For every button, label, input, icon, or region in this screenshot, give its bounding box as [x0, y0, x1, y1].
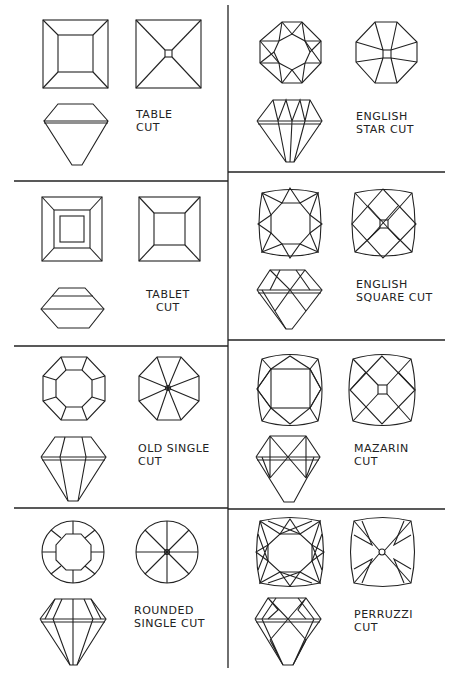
- tablet-cut-bottom-view: [139, 197, 200, 261]
- label-line: CUT: [354, 455, 409, 468]
- label-line: CUT: [146, 301, 190, 314]
- perruzzi-cut-side-view: [255, 598, 321, 665]
- label-line: PERRUZZI: [354, 608, 413, 621]
- english-square-cut-top-view: [258, 188, 322, 258]
- old-single-cut-side-view: [41, 437, 106, 501]
- label-line: MAZARIN: [354, 442, 409, 455]
- table-cut-top-view: [43, 20, 108, 88]
- label-english-star-cut: ENGLISH STAR CUT: [356, 110, 414, 136]
- perruzzi-cut-top-view: [256, 518, 324, 587]
- label-line: ENGLISH: [356, 110, 414, 123]
- english-star-cut-top-view: [260, 22, 321, 83]
- english-square-cut-bottom-view: [352, 189, 416, 258]
- old-single-cut-bottom-view: [139, 357, 199, 420]
- label-mazarin-cut: MAZARIN CUT: [354, 442, 409, 468]
- mazarin-cut-bottom-view: [349, 355, 415, 426]
- label-perruzzi-cut: PERRUZZI CUT: [354, 608, 413, 634]
- label-table-cut: TABLE CUT: [136, 108, 173, 134]
- label-line: TABLET: [146, 288, 190, 301]
- label-old-single-cut: OLD SINGLE CUT: [138, 442, 210, 468]
- label-line: CUT: [354, 621, 413, 634]
- label-line: SINGLE CUT: [134, 617, 205, 630]
- label-line: STAR CUT: [356, 123, 414, 136]
- label-line: ENGLISH: [356, 278, 433, 291]
- english-star-cut-side-view: [257, 100, 322, 162]
- label-rounded-single-cut: ROUNDED SINGLE CUT: [134, 604, 205, 630]
- english-star-cut-bottom-view: [356, 22, 417, 83]
- label-english-square-cut: ENGLISH SQUARE CUT: [356, 278, 433, 304]
- mazarin-cut-side-view: [256, 436, 320, 502]
- english-square-cut-side-view: [257, 270, 322, 329]
- label-tablet-cut: TABLET CUT: [146, 288, 190, 314]
- label-line: CUT: [138, 455, 210, 468]
- label-line: CUT: [136, 121, 173, 134]
- label-line: SQUARE CUT: [356, 291, 433, 304]
- perruzzi-cut-bottom-view: [351, 518, 415, 587]
- tablet-cut-side-view: [41, 288, 104, 328]
- table-cut-bottom-view: [136, 20, 201, 88]
- rounded-single-cut-side-view: [40, 599, 106, 665]
- label-line: TABLE: [136, 108, 173, 121]
- rounded-single-cut-top-view: [42, 521, 104, 583]
- mazarin-cut-top-view: [257, 355, 322, 426]
- label-line: ROUNDED: [134, 604, 205, 617]
- gem-cuts-diagram: [0, 0, 457, 675]
- rounded-single-cut-bottom-view: [136, 521, 198, 583]
- tablet-cut-top-view: [42, 197, 102, 261]
- old-single-cut-top-view: [43, 357, 105, 420]
- table-cut-side-view: [44, 104, 108, 165]
- label-line: OLD SINGLE: [138, 442, 210, 455]
